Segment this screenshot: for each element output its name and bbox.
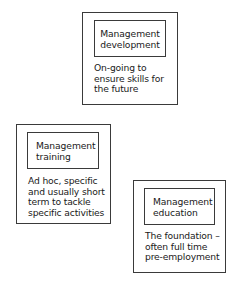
management-education-title-box: Management education	[144, 188, 215, 225]
management-training-title-box: Management training	[27, 132, 99, 169]
management-development-description: On-going to ensure skills for the future	[94, 63, 164, 95]
management-training-description: Ad hoc, specific and usually short term …	[28, 176, 105, 218]
management-training-title: Management training	[36, 140, 96, 162]
management-development-title-box: Management development	[94, 20, 166, 57]
management-education-description: The foundation – often full time pre-emp…	[145, 231, 220, 263]
management-education-title: Management education	[153, 196, 213, 218]
management-training-card: Management training Ad hoc, specific and…	[16, 124, 111, 224]
management-development-title: Management development	[100, 28, 160, 50]
management-development-card: Management development On-going to ensur…	[82, 12, 178, 105]
management-education-card: Management education The foundation – of…	[133, 180, 226, 273]
